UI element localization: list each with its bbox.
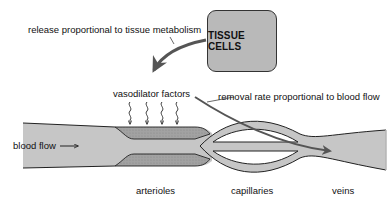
removal-annotation: removal rate proportional to blood flow xyxy=(218,92,380,102)
release-annotation: release proportional to tissue metabolis… xyxy=(28,25,201,35)
tissue-cells-box: TISSUE CELLS xyxy=(207,10,277,72)
arteriole-wall-top xyxy=(115,127,210,139)
vasodilator-annotation: vasodilator factors xyxy=(113,89,190,99)
veins-label: veins xyxy=(332,186,354,196)
arterioles-label: arterioles xyxy=(136,186,175,196)
capillaries xyxy=(200,121,386,172)
release-arrow xyxy=(154,40,206,70)
release-leader-line xyxy=(170,37,174,44)
blood-flow-label: blood flow xyxy=(13,141,56,151)
arteriole-wall-bottom xyxy=(115,154,210,166)
capillaries-label: capillaries xyxy=(231,186,273,196)
vasodilator-arrows xyxy=(129,102,178,124)
vessel xyxy=(23,121,386,172)
tissue-cells-label: TISSUE CELLS xyxy=(208,30,276,52)
